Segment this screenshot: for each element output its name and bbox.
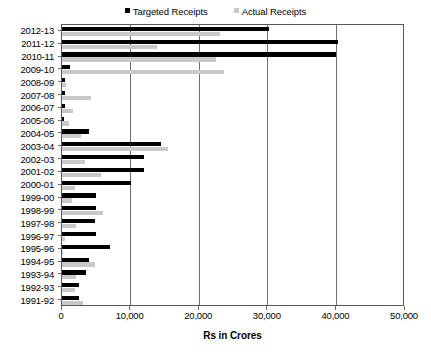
bar-row bbox=[62, 281, 403, 294]
bar-targeted-2009-10 bbox=[62, 65, 70, 69]
bar-actual-1993-94 bbox=[62, 275, 76, 279]
y-axis-label-1999-00: 1999-00 bbox=[21, 192, 54, 203]
y-tick-1998-99 bbox=[58, 209, 61, 210]
y-axis-label-2003-04: 2003-04 bbox=[21, 140, 54, 151]
y-tick-2010-11 bbox=[58, 56, 61, 57]
bar-row bbox=[62, 38, 403, 51]
bar-targeted-2011-12 bbox=[62, 40, 338, 44]
x-tick-30000 bbox=[266, 306, 267, 310]
bar-actual-1997-98 bbox=[62, 224, 76, 228]
y-tick-1994-95 bbox=[58, 261, 61, 262]
bar-targeted-2004-05 bbox=[62, 129, 89, 133]
x-tick-40000 bbox=[335, 306, 336, 310]
y-tick-2001-02 bbox=[58, 171, 61, 172]
y-tick-1999-00 bbox=[58, 197, 61, 198]
y-tick-2009-10 bbox=[58, 68, 61, 69]
y-tick-2002-03 bbox=[58, 158, 61, 159]
bar-rows bbox=[62, 25, 403, 305]
bar-actual-2001-02 bbox=[62, 173, 101, 177]
y-axis-label-1992-93: 1992-93 bbox=[21, 281, 54, 292]
y-axis-label-2007-08: 2007-08 bbox=[21, 89, 54, 100]
bar-targeted-1998-99 bbox=[62, 206, 96, 210]
legend-swatch-actual-icon bbox=[234, 8, 239, 13]
bar-row bbox=[62, 204, 403, 217]
y-tick-2007-08 bbox=[58, 94, 61, 95]
x-axis-label-30000: 30,000 bbox=[253, 310, 281, 321]
bar-actual-1996-97 bbox=[62, 237, 65, 241]
y-axis-label-2005-06: 2005-06 bbox=[21, 115, 54, 126]
bar-targeted-2002-03 bbox=[62, 155, 144, 159]
x-axis-label-0: 0 bbox=[58, 310, 63, 321]
y-axis-label-2011-12: 2011-12 bbox=[21, 38, 54, 49]
y-tick-2006-07 bbox=[58, 107, 61, 108]
bar-actual-1999-00 bbox=[62, 198, 72, 202]
bar-row bbox=[62, 89, 403, 102]
bar-actual-1991-92 bbox=[62, 301, 83, 305]
bar-targeted-1996-97 bbox=[62, 232, 96, 236]
y-tick-1995-96 bbox=[58, 248, 61, 249]
y-axis-label-1991-92: 1991-92 bbox=[21, 294, 54, 305]
y-tick-2000-01 bbox=[58, 184, 61, 185]
bar-targeted-2007-08 bbox=[62, 91, 65, 95]
bar-chart: Targeted Receipts Actual Receipts 2012-1… bbox=[0, 0, 431, 354]
y-axis-label-1996-97: 1996-97 bbox=[21, 230, 54, 241]
bar-row bbox=[62, 25, 403, 38]
bar-targeted-1999-00 bbox=[62, 193, 96, 197]
bar-actual-2010-11 bbox=[62, 57, 216, 61]
y-tick-1997-98 bbox=[58, 222, 61, 223]
bar-row bbox=[62, 294, 403, 306]
y-axis-labels: 2012-132011-122010-112009-102008-092007-… bbox=[0, 24, 58, 306]
bar-actual-2011-12 bbox=[62, 45, 157, 49]
y-axis-label-2008-09: 2008-09 bbox=[21, 76, 54, 87]
bar-row bbox=[62, 269, 403, 282]
bar-row bbox=[62, 179, 403, 192]
bar-actual-1992-93 bbox=[62, 288, 75, 292]
y-axis-label-2004-05: 2004-05 bbox=[21, 127, 54, 138]
bar-targeted-2001-02 bbox=[62, 168, 144, 172]
bar-targeted-2008-09 bbox=[62, 78, 65, 82]
x-tick-10000 bbox=[129, 306, 130, 310]
bar-targeted-1992-93 bbox=[62, 283, 79, 287]
y-axis-label-1993-94: 1993-94 bbox=[21, 268, 54, 279]
bar-actual-2006-07 bbox=[62, 109, 73, 113]
y-tick-2012-13 bbox=[58, 30, 61, 31]
bar-targeted-2010-11 bbox=[62, 52, 336, 56]
y-tick-1993-94 bbox=[58, 273, 61, 274]
chart-legend: Targeted Receipts Actual Receipts bbox=[0, 6, 431, 17]
bar-targeted-2012-13 bbox=[62, 27, 269, 31]
bar-row bbox=[62, 243, 403, 256]
bar-row bbox=[62, 140, 403, 153]
y-axis-label-1997-98: 1997-98 bbox=[21, 217, 54, 228]
bar-actual-2002-03 bbox=[62, 160, 85, 164]
bar-targeted-1991-92 bbox=[62, 296, 79, 300]
y-axis-label-2001-02: 2001-02 bbox=[21, 166, 54, 177]
bar-actual-2004-05 bbox=[62, 134, 81, 138]
bar-targeted-2003-04 bbox=[62, 142, 161, 146]
bar-actual-2012-13 bbox=[62, 32, 220, 36]
bar-targeted-1995-96 bbox=[62, 245, 110, 249]
bar-row bbox=[62, 51, 403, 64]
bar-row bbox=[62, 153, 403, 166]
bar-actual-2009-10 bbox=[62, 70, 224, 74]
y-tick-1991-92 bbox=[58, 299, 61, 300]
bar-row bbox=[62, 115, 403, 128]
bar-targeted-1997-98 bbox=[62, 219, 95, 223]
x-axis-label-10000: 10,000 bbox=[116, 310, 144, 321]
legend-label-actual: Actual Receipts bbox=[242, 6, 307, 17]
y-tick-2004-05 bbox=[58, 132, 61, 133]
bar-row bbox=[62, 128, 403, 141]
bar-targeted-2005-06 bbox=[62, 117, 64, 121]
bar-actual-1998-99 bbox=[62, 211, 103, 215]
y-axis-label-1994-95: 1994-95 bbox=[21, 256, 54, 267]
bar-targeted-1993-94 bbox=[62, 270, 86, 274]
bar-actual-2007-08 bbox=[62, 96, 91, 100]
bar-actual-2003-04 bbox=[62, 147, 168, 151]
y-axis-label-2002-03: 2002-03 bbox=[21, 153, 54, 164]
bar-row bbox=[62, 166, 403, 179]
bar-actual-2005-06 bbox=[62, 121, 69, 125]
bar-actual-1995-96 bbox=[62, 250, 63, 254]
y-tick-1996-97 bbox=[58, 235, 61, 236]
y-tick-2011-12 bbox=[58, 43, 61, 44]
legend-entry-actual-receipts: Actual Receipts bbox=[234, 6, 307, 17]
legend-label-targeted: Targeted Receipts bbox=[133, 6, 208, 17]
